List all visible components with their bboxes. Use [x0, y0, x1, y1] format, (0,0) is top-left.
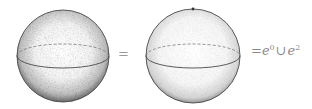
equals-sign-1: =	[118, 47, 129, 60]
zero-cell-point	[192, 8, 195, 11]
cell-decomposition-formula: =e0∪e2	[251, 44, 300, 57]
left-sphere	[17, 10, 109, 102]
equals-sign-2: =	[251, 43, 262, 58]
union-symbol: ∪	[276, 43, 287, 58]
cell-e0-exponent: 0	[270, 43, 275, 52]
cell-e2-exponent: 2	[295, 43, 300, 52]
right-sphere	[146, 8, 240, 103]
cell-e0-base: e	[262, 43, 270, 58]
